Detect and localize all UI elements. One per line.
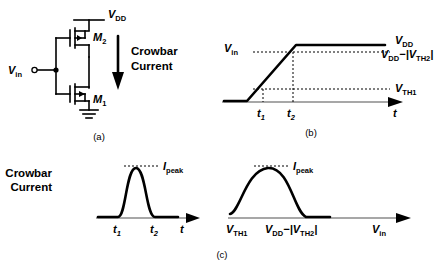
panel-c-right-plot: Ipeak VTH1 VDD−|VTH2| Vin (c) [216, 160, 411, 260]
panel-c-left-ipeak-label: Ipeak [163, 160, 184, 175]
gate-junction-node [53, 67, 58, 72]
vin-label: Vin [8, 64, 22, 79]
panel-c-right-vth1-tick-label: VTH1 [226, 223, 248, 238]
panel-c-right-current-pulse-curve [230, 168, 330, 217]
panel-b-t2-tick-label: t2 [287, 107, 296, 122]
panel-b-vdd-minus-vth2-label: VDD−|VTH2| [381, 48, 433, 63]
panel-c-left-plot: Crowbar Current Ipeak t1 t2 t [5, 160, 200, 238]
panel-c-left-t2-tick-label: t2 [150, 223, 159, 238]
nmos-transistor-m1 [56, 84, 89, 110]
panel-c-left-current-pulse-curve [98, 168, 178, 217]
panel-c-right-ipeak-label: Ipeak [293, 160, 314, 175]
vin-terminal-icon [32, 67, 37, 72]
caption-a: (a) [93, 131, 105, 142]
pmos-transistor-m2 [56, 28, 89, 57]
panel-b-vth1-label: VTH1 [395, 82, 417, 97]
m1-label: M1 [93, 93, 106, 108]
crowbar-current-label-line2: Current [131, 60, 173, 72]
panel-c-right-vin-axis-label: Vin [372, 223, 386, 238]
crowbar-current-arrow-icon [112, 36, 124, 90]
m1-arrow-icon [79, 91, 85, 97]
panel-b-t-axis-label: t [393, 107, 398, 119]
panel-b-waveform: Vin VDD VDD−|VTH2| VTH1 t1 t2 t (b) [222, 34, 433, 138]
panel-c-left-x-axis-arrow-icon [186, 213, 200, 223]
panel-b-vin-label: Vin [224, 42, 238, 57]
panel-c-left-crowbar-label-line2: Current [10, 181, 52, 193]
panel-b-x-axis-arrow-icon [388, 97, 403, 107]
panel-c-right-x-axis-arrow-icon [396, 213, 411, 223]
panel-b-vdd-label: VDD [395, 34, 414, 49]
vdd-label: VDD [108, 8, 127, 23]
panel-b-t1-tick-label: t1 [257, 107, 265, 122]
panel-c-left-t1-tick-label: t1 [113, 223, 121, 238]
caption-c: (c) [216, 249, 227, 260]
figure-crowbar-current: VDD M2 M1 Vin Crowbar Current (a) Vin VD… [0, 0, 445, 277]
m2-arrow-icon [77, 35, 82, 41]
panel-a-circuit: VDD M2 M1 Vin Crowbar Current (a) [8, 8, 178, 142]
panel-c-left-t-axis-label: t [180, 223, 185, 235]
panel-c-right-vdd-minus-vth2-tick-label: VDD−|VTH2| [265, 223, 317, 238]
m2-label: M2 [93, 31, 106, 46]
panel-c-left-crowbar-label-line1: Crowbar [5, 167, 52, 179]
caption-b: (b) [305, 127, 317, 138]
ground-symbol-icon [80, 110, 98, 118]
crowbar-current-label-line1: Crowbar [131, 45, 178, 57]
panel-b-input-ramp-curve [224, 45, 385, 101]
